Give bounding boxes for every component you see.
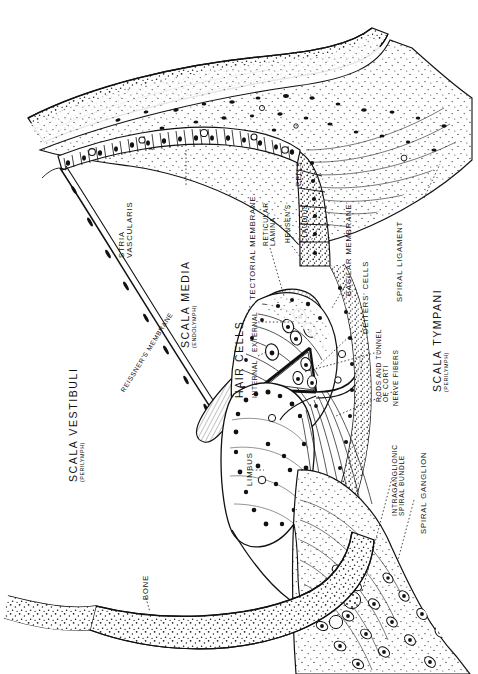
label-scala-media-main: SCALA MEDIA (180, 260, 191, 348)
label-spiral-ligament-main: SPIRAL LIGAMENT (396, 221, 404, 302)
label-hair-cells-main: HAIR CELLS (234, 321, 245, 398)
spiral-ganglion (293, 470, 471, 674)
label-spiral-ganglion-main: SPIRAL GANGLION (420, 452, 428, 534)
label-intraganglionic-line2: SPIRAL BUNDLE (399, 444, 406, 516)
label-spiral-ganglion: SPIRAL GANGLION (420, 452, 428, 534)
leader-reticular-lamina (270, 248, 284, 296)
label-tectorial-membrane: TECTORIAL MEMBRANE (249, 196, 257, 300)
label-bone: BONE (142, 575, 150, 600)
label-deiters-cells-main: DEITERS' CELLS (362, 261, 370, 334)
label-claudius-main: CLAUDIUS' (302, 202, 309, 243)
label-scala-tympani: SCALA TYMPANI (PERILYMPH) (432, 289, 449, 392)
label-scala-vestibuli: SCALA VESTIBULI (PERILYMPH) (68, 368, 85, 482)
label-scala-tympani-sub: (PERILYMPH) (444, 289, 450, 392)
label-scala-tympani-main: SCALA TYMPANI (432, 289, 443, 392)
label-hensens-cells: HENSEN'S (285, 204, 292, 243)
label-bone-main: BONE (142, 575, 150, 600)
label-reticular-lamina-line2: LAMINA (270, 202, 277, 246)
label-hair-cells-external-main: EXTERNAL (252, 312, 259, 352)
label-limbus: LIMBUS (246, 452, 254, 486)
label-cells: CELLS (296, 162, 303, 186)
label-scala-media: SCALA MEDIA (ENDOLYMPH) (180, 260, 197, 348)
label-hair-cells: HAIR CELLS (234, 321, 245, 398)
label-hair-cells-internal-main: INTERNAL (252, 360, 259, 398)
label-claudius-cells: CLAUDIUS' (302, 202, 309, 243)
label-scala-vestibuli-sub: (PERILYMPH) (80, 368, 86, 482)
label-stria-vascularis: STRIA VASCULARIS (118, 201, 134, 258)
cochlea-diagram-figure: SCALA VESTIBULI (PERILYMPH) REISSNER'S M… (0, 0, 478, 674)
label-basilar-membrane: BASILAR MEMBRANE (345, 204, 353, 296)
label-rods-and-tunnel-of-corti: RODS AND TUNNEL OF CORTI (376, 329, 390, 402)
label-deiters-cells: DEITERS' CELLS (362, 261, 370, 334)
label-nerve-fibers: NERVE FIBERS (393, 349, 400, 406)
label-hair-cells-external: EXTERNAL (252, 312, 259, 352)
label-limbus-main: LIMBUS (246, 452, 254, 486)
label-reticular-lamina: RETICULAR LAMINA (263, 202, 277, 246)
label-scala-media-sub: (ENDOLYMPH) (192, 260, 198, 348)
label-cells-main: CELLS (296, 162, 303, 186)
leader-bone (146, 598, 150, 612)
label-hair-cells-internal: INTERNAL (252, 360, 259, 398)
label-tectorial-membrane-main: TECTORIAL MEMBRANE (249, 196, 257, 300)
label-rods-and-tunnel-line2: OF CORTI (383, 329, 390, 402)
label-nerve-fibers-main: NERVE FIBERS (393, 349, 400, 406)
label-stria-vascularis-line2: VASCULARIS (126, 201, 134, 258)
label-intraganglionic-spiral-bundle: INTRAGANGLIONIC SPIRAL BUNDLE (392, 444, 406, 516)
label-hensens-main: HENSEN'S (285, 204, 292, 243)
label-basilar-membrane-main: BASILAR MEMBRANE (345, 204, 353, 296)
label-scala-vestibuli-main: SCALA VESTIBULI (68, 368, 79, 482)
label-spiral-ligament: SPIRAL LIGAMENT (396, 221, 404, 302)
